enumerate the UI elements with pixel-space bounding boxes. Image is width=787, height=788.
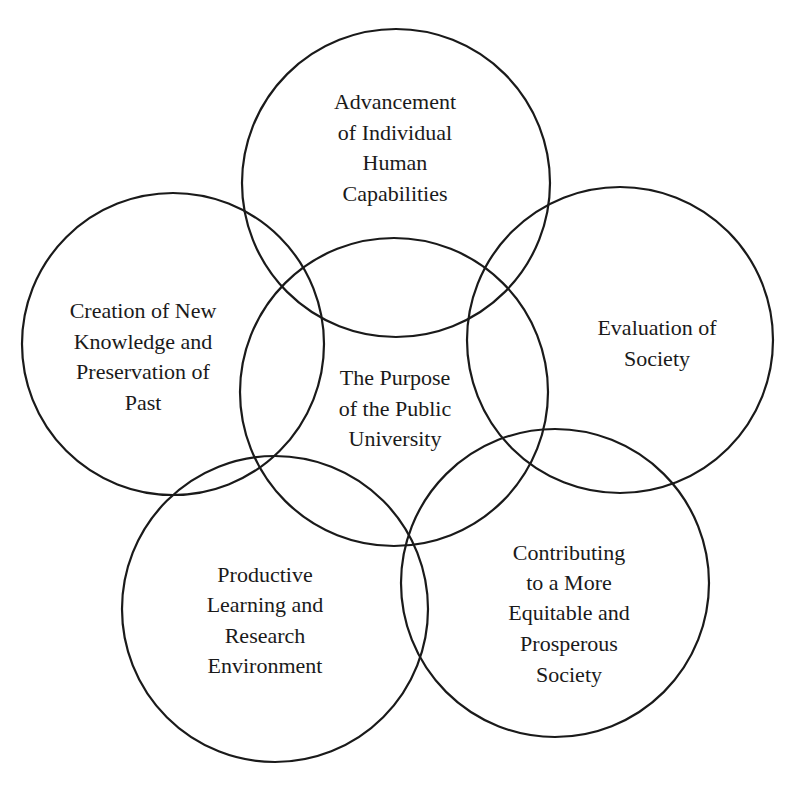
label-line: Productive [217, 562, 312, 587]
label-line: Knowledge and [74, 329, 213, 354]
label-creation-of-new-knowledge: Creation of New Knowledge and Preservati… [70, 298, 217, 415]
circle-center [240, 238, 548, 546]
label-line: Society [536, 662, 602, 687]
label-line: The Purpose [340, 365, 451, 390]
label-line: Research [225, 623, 306, 648]
label-line: Capabilities [342, 181, 447, 206]
label-line: University [349, 426, 442, 451]
label-line: Human [363, 150, 428, 175]
label-evaluation-of-society: Evaluation of Society [597, 315, 717, 371]
label-line: Contributing [513, 540, 625, 565]
label-productive-learning-and-research-environment: Productive Learning and Research Environ… [207, 562, 324, 678]
label-purpose-of-public-university: The Purpose of the Public University [339, 365, 452, 451]
label-line: Preservation of [76, 359, 210, 384]
label-line: Creation of New [70, 298, 217, 323]
label-line: Society [624, 346, 690, 371]
label-line: to a More [526, 570, 612, 595]
label-line: Learning and [207, 592, 324, 617]
label-line: Prosperous [520, 631, 618, 656]
label-advancement-of-individual-human-capabilities: Advancement of Individual Human Capabili… [334, 89, 456, 206]
label-line: Advancement [334, 89, 456, 114]
label-line: of Individual [338, 120, 452, 145]
label-line: Evaluation of [597, 315, 717, 340]
label-line: Equitable and [508, 600, 630, 625]
label-line: Past [125, 390, 162, 415]
purpose-of-public-university-diagram: Advancement of Individual Human Capabili… [0, 0, 787, 788]
label-contributing-to-equitable-prosperous-society: Contributing to a More Equitable and Pro… [508, 540, 630, 687]
label-line: Environment [208, 653, 323, 678]
label-line: of the Public [339, 396, 452, 421]
